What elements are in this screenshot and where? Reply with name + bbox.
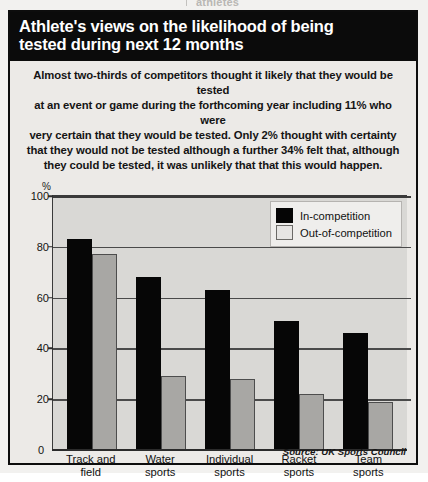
y-tick-zero: 0 (38, 444, 44, 456)
source-note: Source: UK Sports Council (283, 446, 406, 457)
bar-out-of-competition (161, 376, 186, 450)
chart-area: % 20406080100 0 Track andfieldWatersport… (10, 179, 416, 482)
y-tick-100: 100 (31, 190, 49, 202)
legend-swatch-out-of-competition (276, 225, 293, 240)
title-banner: Athlete's views on the likelihood of bei… (10, 12, 416, 61)
x-axis-label-line: Individual (195, 453, 264, 466)
x-axis-label-line: field (56, 466, 125, 479)
legend-label-out-of-competition: Out-of-competition (300, 227, 392, 239)
intro-line-5: they could be tested, it was unlikely th… (21, 158, 405, 173)
x-axis-label-line: Track and (56, 453, 125, 466)
bar-in-competition (205, 290, 230, 450)
chart-figure: Athlete's views on the likelihood of bei… (8, 10, 418, 465)
bar-in-competition (343, 333, 368, 450)
x-axis-label: Racketsports (264, 453, 333, 482)
bar-in-competition (136, 277, 161, 450)
legend-label-in-competition: In-competition (300, 210, 370, 222)
x-axis-label: Teamsports (334, 453, 403, 482)
bar-out-of-competition (299, 394, 324, 450)
intro-line-1: Almost two-thirds of competitors thought… (21, 68, 405, 98)
intro-paragraph: Almost two-thirds of competitors thought… (10, 61, 416, 177)
bar-in-competition (274, 321, 299, 451)
bar-out-of-competition (230, 379, 255, 450)
bleed-text: athletes (196, 0, 239, 8)
bleed-tick (186, 0, 187, 6)
x-axis-labels: Track andfieldWatersportsIndividualsport… (52, 453, 407, 482)
bar-group (57, 196, 126, 450)
bar-out-of-competition (92, 254, 117, 450)
legend-item-out-of-competition: Out-of-competition (276, 225, 392, 240)
x-axis-label-line: sports (125, 466, 194, 479)
legend-swatch-in-competition (276, 208, 293, 223)
bar-group (126, 196, 195, 450)
x-axis-label: Individualsports (195, 453, 264, 482)
page-title-line2: tested during next 12 months (19, 35, 407, 53)
bar-in-competition (67, 239, 92, 450)
x-axis-label-line: Water (125, 453, 194, 466)
intro-line-2: at an event or game during the forthcomi… (21, 98, 405, 128)
intro-line-4: that they would not be tested although a… (21, 143, 405, 158)
chart-legend: In-competition Out-of-competition (270, 201, 402, 247)
x-axis-label-line: sports (264, 466, 333, 479)
x-axis-label-line: sports (334, 466, 403, 479)
x-axis-label: Track andfield (56, 453, 125, 482)
bar-group (195, 196, 264, 450)
legend-item-in-competition: In-competition (276, 208, 392, 223)
intro-line-3: very certain that they would be tested. … (21, 128, 405, 143)
x-axis-label: Watersports (125, 453, 194, 482)
x-axis-label-line: sports (195, 466, 264, 479)
bar-out-of-competition (368, 402, 393, 450)
page-title-line1: Athlete's views on the likelihood of bei… (19, 17, 407, 35)
